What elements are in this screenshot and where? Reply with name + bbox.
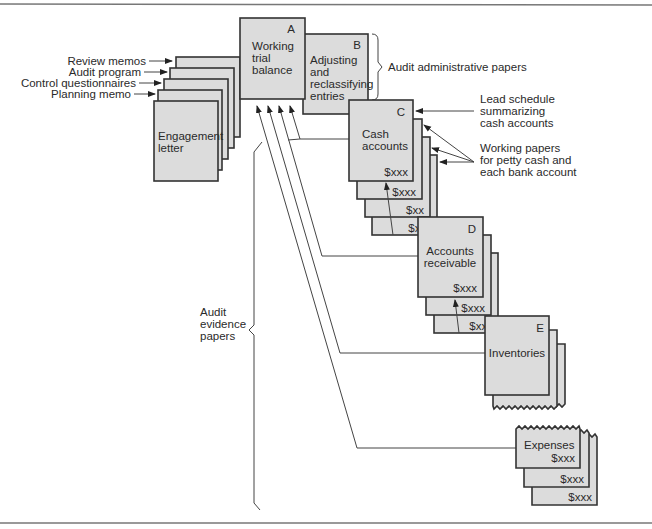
- box-c-cash-accounts: $xxx $xx $xxx C Cash accounts $xxx: [349, 100, 437, 235]
- label-lead-schedule: summarizing: [480, 105, 545, 117]
- box-a-line: trial: [252, 52, 271, 64]
- label-audit-administrative-papers: Audit administrative papers: [388, 61, 527, 73]
- box-c-letter: C: [397, 106, 405, 118]
- box-b-line: reclassifying: [310, 78, 373, 90]
- audit-working-papers-diagram: Engagement letter Review memos Audit pro…: [0, 0, 652, 529]
- box-e-inventories: E Inventories: [485, 316, 565, 409]
- box-a-line: Working: [252, 40, 294, 52]
- box-c-line: accounts: [362, 140, 408, 152]
- label-lead-schedule: Lead schedule: [480, 93, 555, 105]
- engagement-letter-line1: Engagement: [158, 130, 224, 142]
- amount: $xxx: [461, 302, 485, 314]
- engagement-letter-line2: letter: [158, 142, 184, 154]
- label-planning-memo: Planning memo: [51, 88, 131, 100]
- label-working-papers: for petty cash and: [480, 154, 571, 166]
- box-d-line: receivable: [424, 257, 476, 269]
- box-expenses: $xxx $xxx Expenses $xxx: [516, 426, 597, 505]
- box-e-letter: E: [536, 322, 544, 334]
- amount: $xxx: [568, 491, 592, 503]
- box-b-line: entries: [310, 90, 345, 102]
- box-b-line: and: [310, 66, 329, 78]
- box-e-line: Inventories: [489, 347, 546, 359]
- box-d-letter: D: [468, 223, 476, 235]
- box-a-line: balance: [252, 64, 292, 76]
- box-b-line: Adjusting: [310, 54, 357, 66]
- label-audit-evidence-3: papers: [200, 330, 235, 342]
- admin-brace: [372, 34, 382, 100]
- box-d-line: Accounts: [426, 245, 474, 257]
- box-b-letter: B: [353, 39, 361, 51]
- label-audit-evidence-2: evidence: [200, 318, 246, 330]
- amount: $xxx: [384, 166, 408, 178]
- box-c-line: Cash: [362, 128, 389, 140]
- box-a-letter: A: [287, 23, 295, 35]
- amount: $xxx: [453, 282, 477, 294]
- amount: $xxx: [560, 473, 584, 485]
- box-a-working-trial-balance: A Working trial balance: [240, 18, 305, 99]
- amount: $xxx: [551, 452, 575, 464]
- amount: $xxx: [392, 186, 416, 198]
- engagement-stack: Engagement letter: [154, 57, 240, 181]
- left-labels: Review memos Audit program Control quest…: [21, 55, 172, 100]
- arrow-icon: [432, 148, 474, 162]
- box-expenses-line: Expenses: [524, 439, 575, 451]
- label-working-papers: each bank account: [480, 166, 577, 178]
- label-working-papers: Working papers: [480, 142, 561, 154]
- amount: $xx: [406, 204, 424, 216]
- top-rule: [0, 4, 652, 5]
- label-lead-schedule: cash accounts: [480, 117, 554, 129]
- label-audit-evidence-1: Audit: [200, 306, 227, 318]
- evidence-brace: [249, 142, 262, 510]
